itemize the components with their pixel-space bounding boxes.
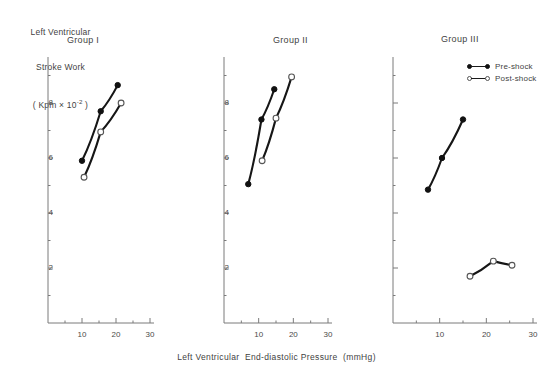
x-tick-label-group-i-20: 20: [106, 330, 126, 339]
y-tick-label-group-ii-8: 8: [209, 98, 229, 107]
data-point-group-iii-post-shock-2: [509, 262, 515, 268]
y-tick-label-group-ii-6: 6: [209, 153, 229, 162]
axes-layer: [48, 57, 537, 323]
x-tick-label-group-iii-20: 20: [476, 330, 496, 339]
data-point-group-ii-post-shock-2: [289, 74, 295, 80]
x-tick-label-group-iii-30: 30: [523, 330, 543, 339]
x-axis-title: Left Ventricular End-diastolic Pressure …: [0, 352, 553, 362]
data-point-group-i-pre-shock-1: [98, 109, 103, 114]
series-line-group-iii-pre-shock: [428, 120, 463, 190]
data-point-group-ii-post-shock-1: [273, 115, 279, 121]
figure-lvsw-vs-lvedp: Left Ventricular Stroke Work ( Kpm × 10-…: [0, 0, 553, 372]
data-point-group-i-post-shock-0: [81, 174, 87, 180]
y-tick-label-group-i-8: 8: [33, 98, 53, 107]
series-line-group-i-post-shock: [84, 103, 121, 177]
data-point-group-iii-pre-shock-2: [460, 117, 465, 122]
data-layer: [79, 74, 515, 279]
x-tick-label-group-i-10: 10: [72, 330, 92, 339]
series-line-group-i-pre-shock: [82, 85, 118, 161]
data-point-group-iii-post-shock-1: [490, 258, 496, 264]
x-tick-label-group-ii-10: 10: [249, 330, 269, 339]
data-point-group-ii-pre-shock-2: [272, 87, 277, 92]
x-tick-label-group-iii-10: 10: [430, 330, 450, 339]
y-tick-label-group-i-2: 2: [33, 263, 53, 272]
data-point-group-ii-post-shock-0: [259, 158, 265, 164]
x-tick-label-group-i-30: 30: [140, 330, 160, 339]
y-tick-label-group-ii-2: 2: [209, 263, 229, 272]
y-tick-label-group-i-4: 4: [33, 208, 53, 217]
data-point-group-ii-pre-shock-0: [246, 181, 251, 186]
data-point-group-ii-pre-shock-1: [259, 117, 264, 122]
x-tick-label-group-ii-30: 30: [318, 330, 338, 339]
x-tick-label-group-ii-20: 20: [283, 330, 303, 339]
data-point-group-iii-pre-shock-1: [439, 155, 444, 160]
data-point-group-iii-pre-shock-0: [425, 187, 430, 192]
data-point-group-i-post-shock-2: [118, 100, 124, 106]
data-point-group-i-pre-shock-2: [115, 82, 120, 87]
data-point-group-i-pre-shock-0: [79, 158, 84, 163]
y-tick-label-group-ii-4: 4: [209, 208, 229, 217]
data-point-group-iii-post-shock-0: [467, 273, 473, 279]
plot-canvas: [0, 0, 553, 372]
y-tick-label-group-i-6: 6: [33, 153, 53, 162]
data-point-group-i-post-shock-1: [98, 129, 104, 135]
